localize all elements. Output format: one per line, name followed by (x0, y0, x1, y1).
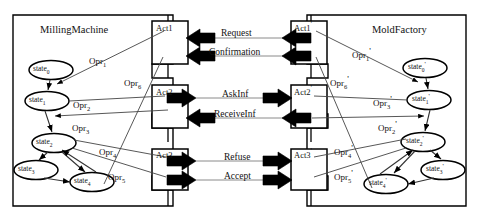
prime-mark: ' (390, 94, 392, 104)
left-operation-label-6: Opr6 (124, 79, 141, 90)
operation-index: 5 (122, 177, 125, 184)
state-name: state (406, 136, 420, 145)
state-index: 2 (50, 142, 53, 148)
right-activity-name-act1: Act1 (294, 23, 311, 33)
operation-index: 6 (138, 83, 141, 90)
prime-mark: ' (311, 147, 312, 156)
prime-mark: ' (443, 162, 444, 170)
left-state-label-2: state2 (36, 138, 53, 148)
left-operation-label-2: Opr2 (73, 101, 90, 112)
block-arrow-refuse-right (263, 152, 292, 170)
state-name: state (369, 178, 383, 187)
state-name: state (426, 164, 440, 173)
left-activity-label-act2: Act2 (156, 88, 173, 97)
operation-name: Opr (72, 123, 86, 133)
state-index: 3 (32, 169, 35, 175)
operation-name: Opr (352, 50, 366, 60)
right-state-label-3: state3' (426, 165, 444, 175)
prime-mark: ' (351, 143, 353, 153)
message-label-askinf: AskInf (222, 90, 248, 100)
operation-name: Opr (334, 172, 348, 182)
block-arrow-accept-right (263, 171, 292, 189)
prime-mark: ' (369, 46, 371, 56)
state-index: 0 (47, 69, 50, 75)
right-operation-label-4: Opr4' (334, 148, 353, 159)
right-operation-label-3: Opr2' (378, 124, 397, 135)
right-state-label-4: state4' (369, 179, 387, 189)
right-state-label-0: state0' (408, 63, 426, 73)
state-name: state (412, 94, 426, 103)
prime-mark: ' (311, 84, 312, 93)
state-name: state (29, 95, 43, 104)
block-arrow-request-left (186, 29, 215, 47)
state-index: 1 (43, 100, 46, 106)
block-arrow-askinf-right (263, 89, 292, 107)
state-index: 4 (88, 181, 91, 187)
prime-mark: ' (351, 168, 353, 178)
message-label-accept: Accept (224, 172, 251, 182)
left-activity-label-act3: Act3 (156, 151, 173, 160)
left-operation-label-5: Opr5 (108, 173, 125, 184)
right-operation-label-2: Opr3' (373, 99, 392, 110)
operation-index: 4 (113, 152, 116, 159)
right-agent-title: MoldFactory (372, 25, 427, 36)
left-state-label-0: state0 (33, 65, 50, 75)
left-operation-label-4: Opr4 (99, 148, 116, 159)
prime-mark: ' (311, 20, 312, 29)
message-label-request: Request (221, 29, 252, 39)
prime-mark: ' (429, 92, 430, 100)
left-state-label-4: state4 (74, 177, 91, 187)
prime-mark: ' (425, 60, 426, 68)
message-label-refuse: Refuse (224, 153, 250, 163)
right-activity-name-act2: Act2 (294, 87, 311, 97)
left-activity-label-act1: Act1 (156, 24, 173, 33)
operation-name: Opr (89, 56, 103, 66)
message-label-receiveinf: ReceiveInf (214, 110, 256, 120)
message-label-confirmation: Confirmation (209, 48, 260, 58)
right-activity-name-act3: Act3 (294, 150, 311, 160)
state-name: state (74, 176, 88, 185)
operation-index: 3 (86, 128, 89, 135)
left-operation-label-1: Opr1 (89, 57, 106, 68)
prime-mark: ' (423, 134, 424, 142)
prime-mark: ' (347, 74, 349, 84)
left-operation-label-3: Opr3 (72, 124, 89, 135)
prime-mark: ' (395, 119, 397, 129)
state-name: state (18, 164, 32, 173)
right-operation-label-5: Opr5' (334, 173, 353, 184)
right-activity-label-act1: Act1' (294, 24, 312, 33)
left-state-label-3: state3 (18, 165, 35, 175)
state-name: state (408, 62, 422, 71)
agent-interaction-diagram: MillingMachine MoldFactory Act1 Act2 Act… (0, 0, 479, 222)
operation-name: Opr (378, 123, 392, 133)
left-agent-title: MillingMachine (40, 25, 108, 36)
operation-name: Opr (108, 172, 122, 182)
operation-index: 2 (87, 105, 90, 112)
operation-name: Opr (99, 147, 113, 157)
operation-name: Opr (334, 147, 348, 157)
right-operation-label-1: Opr1' (352, 51, 371, 62)
prime-mark: ' (386, 176, 387, 184)
left-state-label-1: state1 (29, 96, 46, 106)
block-arrow-receiveinf-left (186, 109, 215, 127)
right-activity-label-act3: Act3' (294, 151, 312, 160)
right-state-label-1: state1' (412, 95, 430, 105)
operation-name: Opr (73, 100, 87, 110)
operation-name: Opr (124, 78, 138, 88)
right-operation-label-6: Opr6' (330, 79, 349, 90)
operation-name: Opr (330, 78, 344, 88)
operation-name: Opr (373, 98, 387, 108)
state-name: state (36, 137, 50, 146)
state-name: state (33, 64, 47, 73)
right-activity-boxes (291, 21, 327, 190)
right-state-label-2: state2' (406, 137, 424, 147)
right-activity-label-act2: Act2' (294, 88, 312, 97)
operation-index: 1 (103, 61, 106, 68)
